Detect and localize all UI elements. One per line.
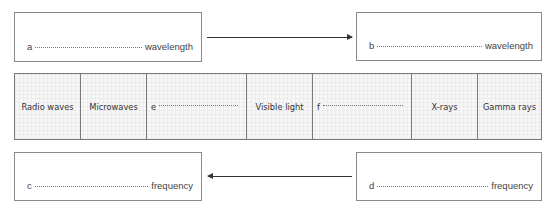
cell-x-rays: X-rays [412,74,478,139]
label-frequency: frequency [491,180,533,191]
letter-a: a [27,41,32,52]
answer-line-d[interactable]: d frequency [369,180,533,191]
arrow-right-icon [207,37,352,38]
cell-blank-e[interactable]: e [147,74,247,139]
dotted-blank [377,185,488,187]
answer-line-b[interactable]: b wavelength [369,40,533,51]
electromagnetic-spectrum-band: Radio waves Microwaves e Visible light f… [14,73,542,140]
cell-gamma-rays: Gamma rays [478,74,541,139]
letter-b: b [369,40,374,51]
answer-line-c[interactable]: c frequency [27,180,193,191]
dotted-blank [159,104,238,106]
letter-c: c [27,180,32,191]
label-wavelength: wavelength [485,40,533,51]
dotted-blank [377,45,482,47]
cell-visible-light: Visible light [247,74,313,139]
label-wavelength: wavelength [145,41,193,52]
arrow-left-icon [208,176,352,177]
box-b-wavelength: b wavelength [356,12,542,61]
cell-blank-f[interactable]: f [313,74,412,139]
box-d-frequency: d frequency [356,152,542,201]
answer-line-a[interactable]: a wavelength [27,41,193,52]
letter-e: e [151,102,156,112]
box-c-frequency: c frequency [14,152,202,201]
dotted-blank [35,46,142,48]
cell-radio-waves: Radio waves [15,74,81,139]
dotted-blank [35,185,149,187]
box-a-wavelength: a wavelength [14,12,202,62]
cell-microwaves: Microwaves [81,74,147,139]
letter-d: d [369,180,374,191]
dotted-blank [323,104,403,106]
label-frequency: frequency [151,180,193,191]
letter-f: f [317,102,320,112]
